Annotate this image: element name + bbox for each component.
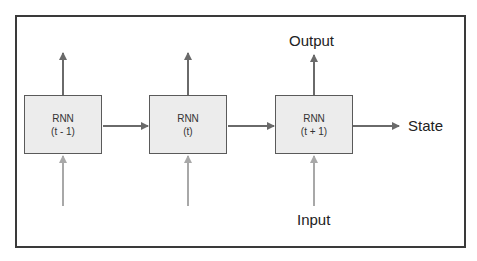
- rnn-cell-t-plus-1: RNN (t + 1): [275, 95, 353, 154]
- cell-name: RNN: [177, 112, 199, 125]
- cell-step: (t + 1): [301, 125, 327, 138]
- output-arrows: [63, 53, 314, 95]
- cell-step: (t): [183, 125, 192, 138]
- cell-name: RNN: [52, 112, 74, 125]
- input-label: Input: [297, 211, 330, 228]
- cell-name: RNN: [303, 112, 325, 125]
- rnn-cell-t: RNN (t): [149, 95, 227, 154]
- rnn-cell-t-minus-1: RNN (t - 1): [24, 95, 102, 154]
- state-label: State: [408, 117, 443, 134]
- input-arrows: [63, 156, 314, 206]
- cell-step: (t - 1): [51, 125, 75, 138]
- output-label: Output: [289, 32, 334, 49]
